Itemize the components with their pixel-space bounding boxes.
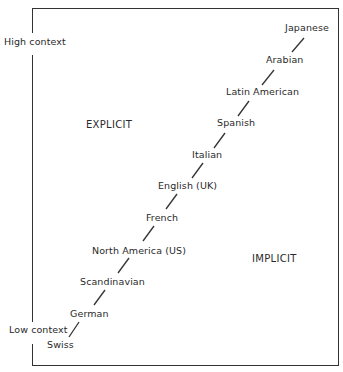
culture-japanese: Japanese xyxy=(285,22,329,33)
culture-scandinavian: Scandinavian xyxy=(80,276,145,287)
culture-north-america-us: North America (US) xyxy=(92,245,186,256)
culture-swiss: Swiss xyxy=(47,339,74,350)
culture-italian: Italian xyxy=(192,149,222,160)
culture-spanish: Spanish xyxy=(217,117,255,128)
culture-arabian: Arabian xyxy=(266,54,303,65)
culture-german: German xyxy=(70,308,109,319)
culture-latin-american: Latin American xyxy=(226,86,299,97)
culture-french: French xyxy=(146,212,178,223)
culture-english-uk: English (UK) xyxy=(158,180,217,191)
